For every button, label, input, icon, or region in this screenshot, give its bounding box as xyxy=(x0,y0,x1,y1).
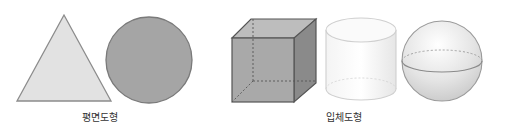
circle-shape xyxy=(106,17,192,103)
shapes-diagram xyxy=(0,0,505,131)
plane-figures-label: 평면도형 xyxy=(82,109,118,124)
triangle-shape xyxy=(17,15,111,101)
cube-shape xyxy=(232,19,316,102)
cylinder-shape xyxy=(326,18,396,100)
solid-figures-label: 입체도형 xyxy=(326,109,362,124)
sphere-shape xyxy=(402,21,482,101)
